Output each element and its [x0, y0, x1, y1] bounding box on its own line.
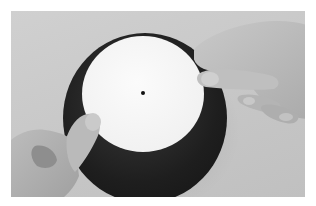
left-hand	[11, 106, 115, 197]
photograph	[11, 11, 305, 197]
center-dot	[141, 91, 145, 95]
right-hand	[194, 17, 305, 127]
